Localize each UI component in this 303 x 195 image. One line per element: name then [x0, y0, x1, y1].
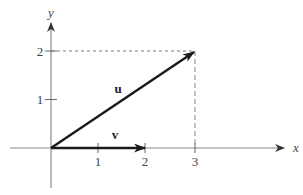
x-axis-label: x — [292, 140, 299, 155]
x-tick-label-2: 2 — [142, 154, 149, 169]
vector-u — [51, 52, 194, 148]
y-axis-label: y — [46, 5, 54, 20]
vector-u-label: u — [114, 81, 121, 96]
y-tick-label-1: 1 — [37, 92, 44, 107]
x-tick-label-3: 3 — [192, 154, 199, 169]
x-tick-label-1: 1 — [95, 154, 102, 169]
vector-v-label: v — [112, 127, 119, 142]
vector-diagram: y x 1 2 3 1 2 u v — [0, 0, 303, 195]
y-tick-label-2: 2 — [37, 44, 44, 59]
